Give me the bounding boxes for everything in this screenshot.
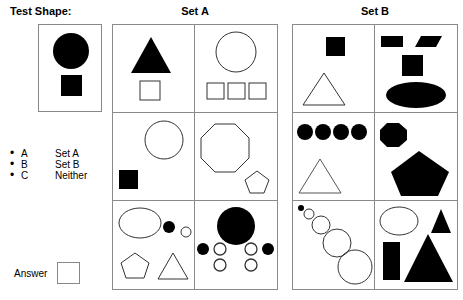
outlined-square-shape — [249, 83, 266, 99]
outlined-circle-shape — [181, 227, 191, 237]
set-a-cell-row3-right[interactable] — [195, 201, 277, 289]
set-b-cell-row3-left[interactable] — [293, 201, 375, 289]
filled-circle-shape — [163, 221, 175, 233]
set-b-cell-row1-right[interactable] — [375, 25, 457, 113]
outlined-triangle-shape — [299, 159, 341, 193]
list-item[interactable]: • B Set B — [10, 159, 110, 170]
outlined-circle-shape — [338, 250, 372, 284]
filled-square-shape — [402, 55, 423, 76]
filled-circle-shape — [297, 124, 313, 140]
outlined-octagon-shape — [201, 124, 249, 172]
test-shape-title: Test Shape: — [10, 5, 72, 17]
legend-key: B — [21, 159, 55, 170]
list-item[interactable]: • A Set A — [10, 148, 110, 159]
set-a-cell-row3-left[interactable] — [113, 201, 195, 289]
test-shape-box — [38, 24, 102, 112]
list-item[interactable]: • C Neither — [10, 170, 110, 181]
outlined-triangle-shape — [303, 73, 345, 105]
outlined-triangle-shape — [158, 253, 188, 279]
shape-group — [375, 201, 457, 289]
filled-circle-shape — [262, 243, 274, 255]
filled-rectangle-shape — [381, 36, 403, 47]
filled-circle-shape — [315, 124, 331, 140]
bullet-icon: • — [10, 170, 21, 181]
set-b-grid — [292, 24, 458, 290]
tiny-filled-circle-shape — [298, 205, 304, 211]
shape-group — [195, 25, 277, 113]
filled-circle-shape — [333, 124, 349, 140]
set-a-cell-row2-right[interactable] — [195, 113, 277, 201]
shape-group — [293, 25, 375, 113]
set-b-cell-row2-right[interactable] — [375, 113, 457, 201]
set-a-title: Set A — [112, 5, 278, 17]
legend-value: Neither — [55, 170, 87, 181]
legend-value: Set A — [55, 148, 79, 159]
shape-group — [195, 201, 277, 289]
set-a-cell-row1-right[interactable] — [195, 25, 277, 113]
filled-triangle-shape — [131, 37, 171, 73]
shape-group — [293, 113, 375, 201]
set-a-grid — [112, 24, 278, 290]
outlined-square-shape — [140, 81, 160, 100]
answer-label: Answer — [14, 268, 47, 279]
legend-key: C — [21, 170, 55, 181]
legend-value: Set B — [55, 159, 79, 170]
test-shape-circle — [53, 33, 89, 69]
filled-octagon-shape — [380, 123, 407, 147]
outlined-circle-shape — [214, 259, 226, 271]
set-b-cell-row3-right[interactable] — [375, 201, 457, 289]
set-a-cell-row2-left[interactable] — [113, 113, 195, 201]
set-b-title: Set B — [292, 5, 458, 17]
outlined-ellipse-shape — [119, 208, 161, 238]
set-a-cell-row1-left[interactable] — [113, 25, 195, 113]
answer-row: Answer — [14, 262, 80, 284]
shape-group — [375, 113, 457, 201]
outlined-square-shape — [207, 83, 224, 99]
outlined-circle-shape — [304, 209, 314, 219]
filled-circle-shape — [351, 124, 367, 140]
large-filled-circle-shape — [217, 207, 255, 245]
test-shape-square — [61, 75, 82, 96]
large-filled-pentagon-shape — [391, 151, 449, 196]
shape-group — [293, 201, 375, 289]
shape-group — [113, 113, 195, 201]
outlined-square-shape — [228, 83, 245, 99]
filled-parallelogram-shape — [415, 36, 442, 47]
legend: • A Set A • B Set B • C Neither — [10, 148, 110, 181]
shape-group — [375, 25, 457, 113]
outlined-circle-shape — [216, 32, 256, 72]
filled-circle-shape — [197, 243, 209, 255]
shape-group — [113, 201, 195, 289]
set-b-cell-row2-left[interactable] — [293, 113, 375, 201]
filled-square-shape — [119, 170, 138, 189]
answer-input[interactable] — [57, 262, 80, 284]
set-b-cell-row1-left[interactable] — [293, 25, 375, 113]
outlined-pentagon-shape — [121, 253, 149, 278]
filled-square-shape — [326, 37, 345, 56]
shape-group — [195, 113, 277, 201]
filled-rectangle-shape — [383, 242, 400, 280]
outlined-circle-shape — [323, 229, 351, 257]
outlined-circle-shape — [245, 243, 257, 255]
outlined-circle-shape — [312, 216, 330, 234]
shape-group — [113, 25, 195, 113]
filled-ellipse-shape — [386, 82, 446, 108]
outlined-circle-shape — [145, 121, 183, 159]
outlined-circle-shape — [214, 243, 226, 255]
legend-key: A — [21, 148, 55, 159]
large-filled-triangle-shape — [404, 234, 453, 282]
outlined-ellipse-shape — [380, 207, 418, 235]
outlined-circle-shape — [245, 259, 257, 271]
outlined-pentagon-shape — [245, 171, 269, 193]
small-filled-triangle-shape — [431, 209, 451, 233]
